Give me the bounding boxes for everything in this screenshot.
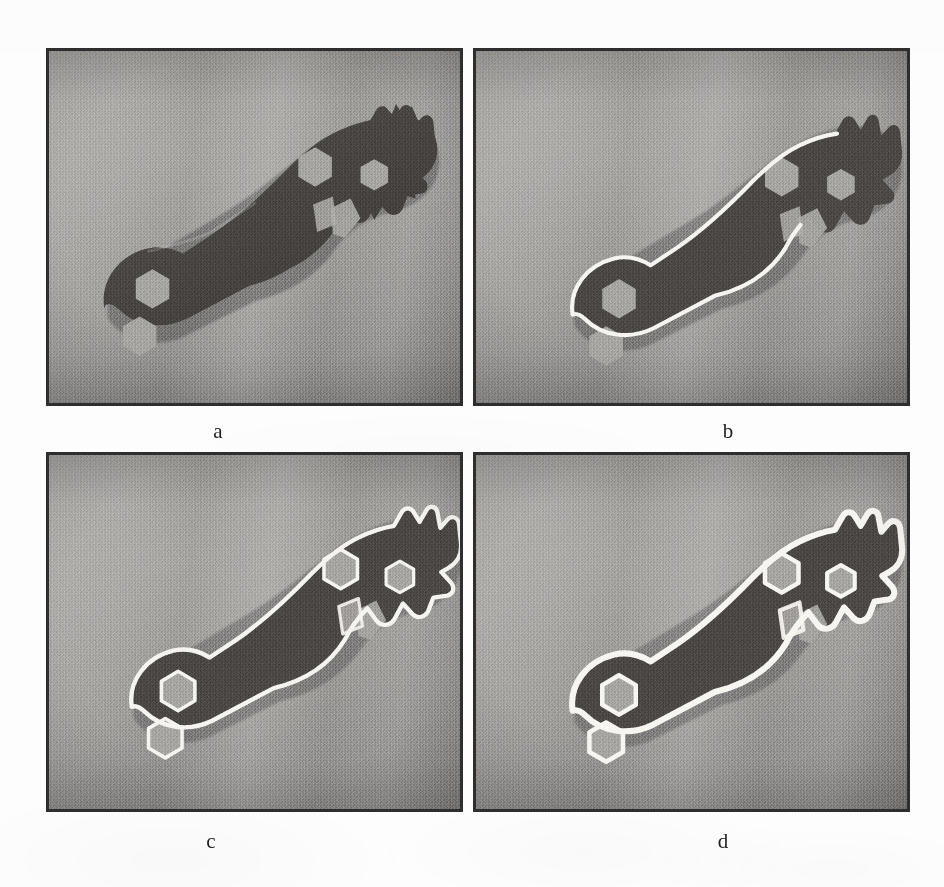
panel-c-full-contour-image <box>46 452 463 812</box>
panel-a-original-image <box>46 48 463 406</box>
panel-c-caption: c <box>191 831 231 852</box>
panel-d-caption: d <box>703 831 743 852</box>
panel-b-caption: b <box>708 421 748 442</box>
panel-a-caption: a <box>198 421 238 442</box>
figure-grid: a b c d <box>0 0 944 887</box>
panel-d-thick-contour-image <box>473 452 910 812</box>
panel-d-spanner-shape <box>476 455 907 809</box>
panel-b-partial-contour-image <box>473 48 910 406</box>
panel-c-spanner-shape <box>49 455 460 809</box>
panel-a-spanner-shape <box>49 51 460 403</box>
panel-b-spanner-shape <box>476 51 907 403</box>
